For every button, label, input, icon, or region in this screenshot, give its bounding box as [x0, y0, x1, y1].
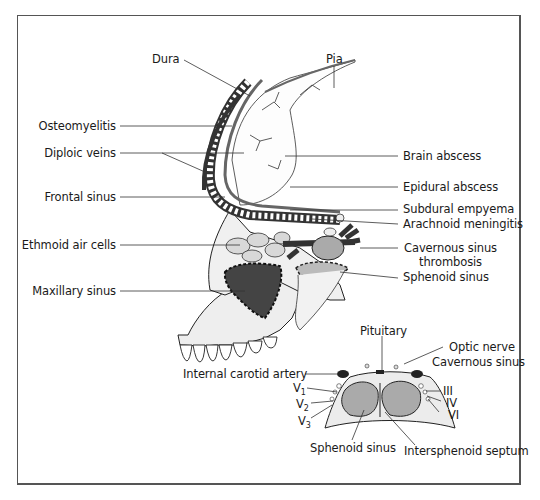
label-pituitary: Pituitary [360, 325, 407, 338]
label-sphenoid-sinus-upper: Sphenoid sinus [403, 271, 489, 284]
label-sphenoid-sinus-inset: Sphenoid sinus [310, 442, 396, 455]
label-frontal-sinus: Frontal sinus [20, 191, 116, 204]
label-intersphenoid-septum: Intersphenoid septum [404, 445, 529, 458]
inset-cross-section [305, 336, 455, 445]
label-cavernous-sinus-thrombosis-line1: Cavernous sinus [403, 242, 498, 255]
label-osteomyelitis: Osteomyelitis [20, 120, 116, 133]
label-cavernous-sinus: Cavernous sinus [432, 356, 525, 369]
label-ethmoid-air-cells: Ethmoid air cells [16, 239, 116, 252]
label-brain-abscess: Brain abscess [403, 150, 481, 163]
label-internal-carotid-artery: Internal carotid artery [183, 368, 307, 381]
label-diploic-veins: Diploic veins [20, 147, 116, 160]
label-epidural-abscess: Epidural abscess [403, 181, 498, 194]
brain-shape [232, 60, 355, 205]
label-cn6: VI [448, 409, 459, 422]
label-cavernous-sinus-thrombosis-line2: thrombosis [403, 256, 498, 269]
label-v2: V2 [296, 398, 309, 415]
label-pia: Pia [326, 53, 343, 66]
label-optic-nerve: Optic nerve [449, 341, 515, 354]
cavernous-sinus-thrombosis-shape [283, 225, 360, 260]
label-subdural-empyema: Subdural empyema [403, 203, 514, 216]
label-v3: V3 [298, 415, 311, 432]
label-dura: Dura [152, 53, 180, 66]
label-maxillary-sinus: Maxillary sinus [20, 285, 116, 298]
label-arachnoid-meningitis: Arachnoid meningitis [403, 218, 523, 231]
